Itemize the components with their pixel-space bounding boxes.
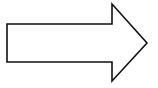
right-arrow-icon [7,4,147,81]
arrow-diagram [0,0,158,88]
diagram-canvas [0,0,158,88]
